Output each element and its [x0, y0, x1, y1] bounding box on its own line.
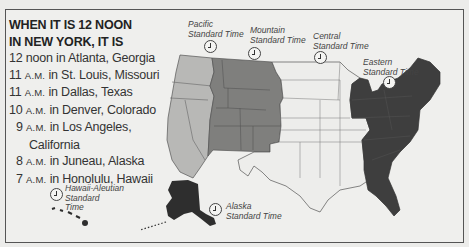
clock-icon [314, 51, 327, 64]
alaska-zone-label: Alaska Standard Time [226, 202, 282, 221]
clock-icon [209, 203, 222, 216]
legend-row-juneau: 8 A.M. in Juneau, Alaska [9, 153, 179, 171]
central-zone-label: Central Standard Time [313, 32, 369, 51]
pacific-zone-label: Pacific Standard Time [188, 20, 244, 39]
legend-row-california: California [9, 137, 179, 154]
legend-row-st-louis: 11 A.M. in St. Louis, Missouri [9, 67, 179, 85]
legend-row-atlanta: 12 noon in Atlanta, Georgia [9, 50, 179, 67]
clock-icon [50, 188, 63, 201]
clock-icon [204, 40, 217, 53]
mountain-zone-region [208, 58, 283, 156]
mountain-zone-label: Mountain Standard Time [250, 26, 306, 45]
time-comparison-legend: WHEN IT IS 12 NOON IN NEW YORK, IT IS 12… [9, 17, 179, 188]
legend-row-dallas: 11 A.M. in Dallas, Texas [9, 84, 179, 102]
legend-title-line-2: IN NEW YORK, IT IS [9, 34, 179, 51]
legend-title-line-1: WHEN IT IS 12 NOON [9, 17, 179, 34]
clock-icon [383, 76, 396, 89]
eastern-zone-label: Eastern Standard Time [363, 58, 419, 77]
hawaii-aleutian-zone-label: Hawaii-Aleutian Standard Time [65, 184, 124, 213]
legend-row-los-angeles: 9 A.M. in Los Angeles, [9, 119, 179, 137]
legend-row-denver: 10 A.M. in Denver, Colorado [9, 102, 179, 120]
clock-icon [248, 47, 261, 60]
